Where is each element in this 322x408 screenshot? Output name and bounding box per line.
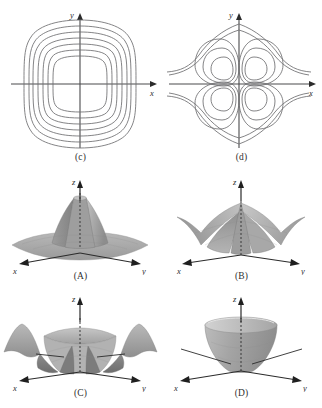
panel-caption-d: (d): [161, 152, 322, 162]
surface-c3d-ripple-left: [4, 324, 40, 357]
axis-label-x-c: x: [149, 88, 154, 98]
panel-contour-c: y x (c): [0, 0, 161, 172]
axis-label-z-c3d: z: [71, 294, 76, 304]
contour-plot-c: y x: [0, 0, 161, 150]
axis-label-z-b: z: [232, 177, 237, 187]
panel-surface-d3d: z x y (D): [161, 292, 322, 408]
axes-b: [182, 180, 300, 266]
surface-plot-a: z x y: [0, 175, 161, 275]
surface-plot-d3d: z x y: [161, 292, 322, 392]
axis-label-x-d: x: [308, 88, 313, 98]
panel-caption-c: (c): [0, 152, 161, 162]
panel-surface-b: z x y (B): [161, 175, 322, 292]
axis-label-y-d: y: [228, 10, 233, 20]
panel-caption-a: (A): [0, 271, 161, 281]
axis-label-y-c: y: [69, 10, 74, 20]
panel-caption-c3d: (C): [0, 388, 161, 398]
panel-caption-b: (B): [161, 271, 322, 281]
surface-c3d-ripple-right: [121, 324, 157, 357]
figure-sheet: y x (c): [0, 0, 322, 408]
panel-contour-d: y x (d): [161, 0, 322, 172]
panel-surface-c3d: z x y (C): [0, 292, 161, 408]
axis-label-z-a: z: [71, 177, 76, 187]
contour-plot-d: y x: [161, 0, 322, 150]
panel-caption-d3d: (D): [161, 388, 322, 398]
panel-surface-a: z x y (A): [0, 175, 161, 292]
axes-c3d: [19, 297, 141, 383]
axis-label-z-d3d: z: [232, 294, 237, 304]
surface-plot-b: z x y: [161, 175, 322, 275]
surface-plot-c3d: z x y: [0, 292, 161, 392]
